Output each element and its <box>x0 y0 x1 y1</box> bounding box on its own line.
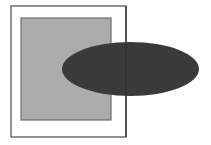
figure-canvas <box>0 0 211 145</box>
dark-filled-ellipse <box>62 42 199 96</box>
figure-svg <box>0 0 211 145</box>
